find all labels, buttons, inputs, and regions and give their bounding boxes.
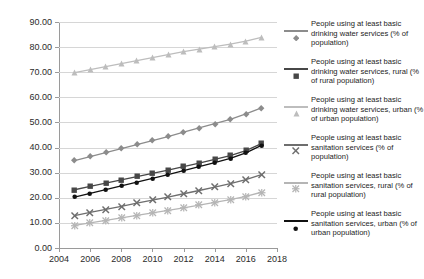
legend-item[interactable]: People using at least basic sanitation s… xyxy=(284,170,424,203)
y-axis-tick-label: 60.00 xyxy=(6,93,52,102)
y-axis-tick-label: 70.00 xyxy=(6,68,52,77)
y-axis-tick-label: 10.00 xyxy=(6,218,52,227)
y-axis-tick-label: 80.00 xyxy=(6,43,52,52)
legend-item-label: People using at least basic drinking wat… xyxy=(311,18,424,48)
legend-item-label: People using at least basic sanitation s… xyxy=(311,170,424,200)
x-axis-tick-mark xyxy=(246,248,247,252)
chart-legend: People using at least basic drinking wat… xyxy=(284,18,424,246)
x-axis-tick-mark xyxy=(215,248,216,252)
x-axis-tick-mark xyxy=(184,248,185,252)
line-chart: 0.0010.0020.0030.0040.0050.0060.0070.008… xyxy=(0,0,424,279)
y-axis-tick-label: 0.00 xyxy=(6,244,52,253)
y-axis-tick-label: 40.00 xyxy=(6,143,52,152)
x-axis-tick-label: 2018 xyxy=(257,254,297,264)
series-line xyxy=(59,22,277,248)
x-axis-tick-mark xyxy=(121,248,122,252)
x-axis-tick-mark xyxy=(59,248,60,252)
y-axis-tick-label: 90.00 xyxy=(6,18,52,27)
legend-item[interactable]: People using at least basic drinking wat… xyxy=(284,18,424,51)
legend-item[interactable]: People using at least basic drinking wat… xyxy=(284,56,424,89)
legend-item[interactable]: People using at least basic drinking wat… xyxy=(284,94,424,127)
legend-marker-icon xyxy=(284,177,308,203)
legend-item-label: People using at least basic sanitation s… xyxy=(311,208,424,238)
y-axis-tick-label: 50.00 xyxy=(6,118,52,127)
legend-marker-icon xyxy=(284,63,308,89)
legend-item-label: People using at least basic drinking wat… xyxy=(311,56,424,86)
y-axis-tick-label: 30.00 xyxy=(6,168,52,177)
legend-marker-icon xyxy=(284,101,308,127)
x-axis-tick-mark xyxy=(277,248,278,252)
legend-marker-icon xyxy=(284,215,308,241)
y-axis-tick-label: 20.00 xyxy=(6,193,52,202)
legend-item[interactable]: People using at least basic sanitation s… xyxy=(284,208,424,241)
plot-area xyxy=(59,22,277,248)
legend-marker-icon xyxy=(284,139,308,165)
legend-item-label: People using at least basic drinking wat… xyxy=(311,94,424,124)
legend-item-label: People using at least basic sanitation s… xyxy=(311,132,424,162)
x-axis-tick-mark xyxy=(152,248,153,252)
legend-item[interactable]: People using at least basic sanitation s… xyxy=(284,132,424,165)
x-axis-tick-mark xyxy=(90,248,91,252)
legend-marker-icon xyxy=(284,25,308,51)
